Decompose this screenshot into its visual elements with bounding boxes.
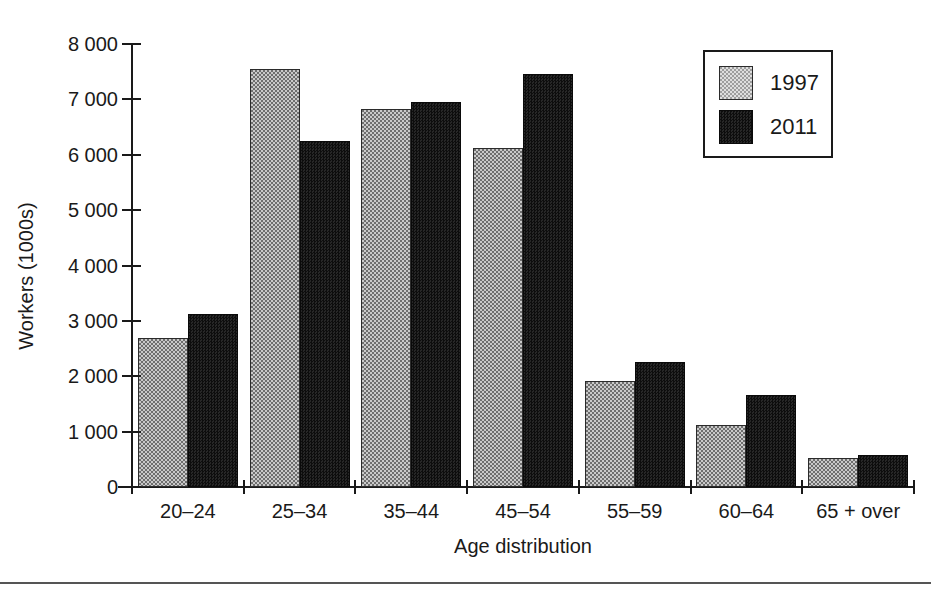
footer-divider <box>0 582 931 584</box>
x-axis-tick-3 <box>578 480 580 494</box>
bar-1997-20–24 <box>138 338 188 488</box>
bar-chart-figure: 01 0002 0003 0004 0005 0006 0007 0008 00… <box>0 0 931 598</box>
legend-swatch-icon-2011 <box>719 110 753 144</box>
bar-1997-65-+-over <box>808 458 858 487</box>
bar-2011-60–64 <box>746 395 796 487</box>
x-axis-label-25–34: 25–34 <box>244 500 356 522</box>
bar-2011-55–59 <box>635 362 685 487</box>
legend-label-2011: 2011 <box>770 115 817 139</box>
y-axis-tick-7000 <box>122 98 141 100</box>
bar-1997-25–34 <box>250 69 300 487</box>
y-axis-tick-label-0: 0 <box>6 477 118 497</box>
bar-2011-65-+-over <box>858 455 908 487</box>
y-axis-tick-8000 <box>122 43 141 45</box>
legend-entry-2011: 2011 <box>719 110 817 144</box>
bar-1997-55–59 <box>585 381 635 487</box>
x-axis-tick-end <box>913 480 915 494</box>
x-axis-tick-5 <box>801 480 803 494</box>
x-axis-label-60–64: 60–64 <box>691 500 803 522</box>
legend-label-1997: 1997 <box>770 71 819 95</box>
bar-1997-45–54 <box>473 148 523 487</box>
x-axis-title: Age distribution <box>132 535 914 557</box>
bar-1997-60–64 <box>696 425 746 487</box>
bar-1997-35–44 <box>361 109 411 487</box>
y-axis-title: Workers (1000s) <box>15 146 37 406</box>
legend-entry-1997: 1997 <box>719 66 819 100</box>
x-axis-tick-0 <box>243 480 245 494</box>
bar-2011-20–24 <box>188 314 238 487</box>
y-axis-tick-2000 <box>122 375 141 377</box>
bar-2011-35–44 <box>411 102 461 487</box>
chart-legend: 1997 2011 <box>703 50 833 158</box>
y-axis-tick-label-1000: 1 000 <box>6 422 118 442</box>
x-axis-tick-2 <box>466 480 468 494</box>
x-axis-label-55–59: 55–59 <box>579 500 691 522</box>
legend-swatch-icon-1997 <box>719 66 753 100</box>
x-axis-label-45–54: 45–54 <box>467 500 579 522</box>
y-axis-tick-label-7000: 7 000 <box>6 89 118 109</box>
y-axis-tick-5000 <box>122 209 141 211</box>
x-axis-label-35–44: 35–44 <box>355 500 467 522</box>
y-axis-tick-3000 <box>122 320 141 322</box>
x-axis-tick-1 <box>354 480 356 494</box>
x-axis-label-65-+-over: 65 + over <box>802 500 914 522</box>
y-axis-tick-label-8000: 8 000 <box>6 34 118 54</box>
x-axis-label-20–24: 20–24 <box>132 500 244 522</box>
y-axis-tick-1000 <box>122 431 141 433</box>
x-axis-tick-4 <box>690 480 692 494</box>
bar-2011-25–34 <box>300 141 350 487</box>
y-axis-tick-4000 <box>122 265 141 267</box>
x-axis-tick-start <box>131 480 133 494</box>
y-axis-tick-6000 <box>122 154 141 156</box>
bar-2011-45–54 <box>523 74 573 487</box>
